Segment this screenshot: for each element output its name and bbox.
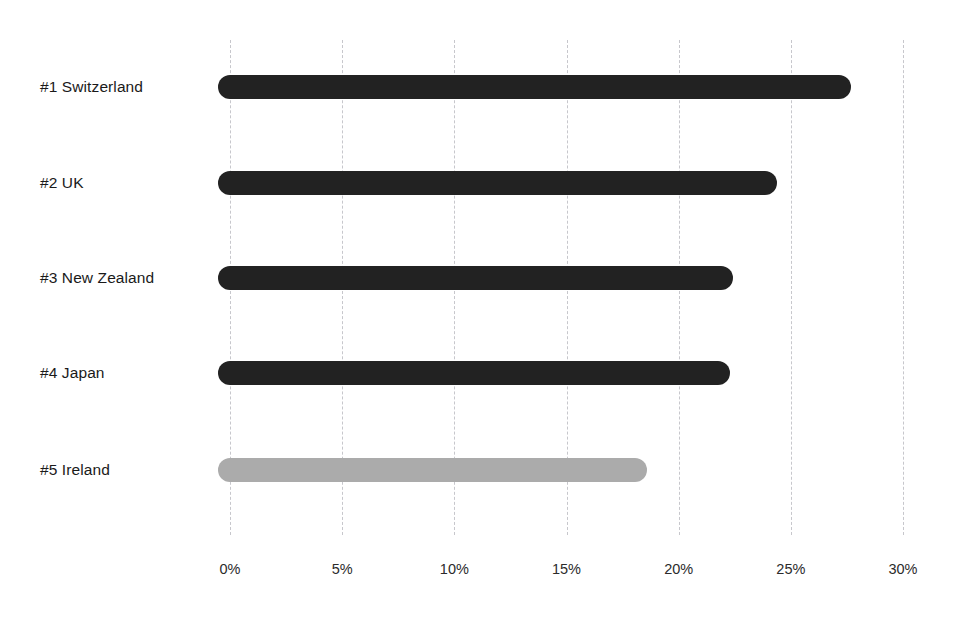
x-tick-label: 10%	[440, 561, 469, 577]
bar-row: #4 Japan	[0, 361, 980, 385]
bar-3-new-zealand	[218, 266, 733, 290]
bar-category-label: #4 Japan	[40, 364, 105, 382]
bar-row: #1 Switzerland	[0, 75, 980, 99]
bar-category-label: #2 UK	[40, 174, 84, 192]
bar-row: #2 UK	[0, 171, 980, 195]
bar-1-switzerland	[218, 75, 851, 99]
x-tick-label: 15%	[552, 561, 581, 577]
x-tick-label: 20%	[664, 561, 693, 577]
bar-track	[218, 458, 647, 482]
bar-track	[218, 266, 733, 290]
x-tick-label: 30%	[888, 561, 917, 577]
bar-category-label: #1 Switzerland	[40, 78, 143, 96]
bar-4-japan	[218, 361, 730, 385]
bar-5-ireland	[218, 458, 647, 482]
x-tick-label: 5%	[332, 561, 353, 577]
bar-chart: #1 Switzerland#2 UK#3 New Zealand#4 Japa…	[0, 0, 980, 629]
bar-track	[218, 75, 851, 99]
bar-category-label: #3 New Zealand	[40, 269, 154, 287]
bar-track	[218, 171, 777, 195]
bar-row: #5 Ireland	[0, 458, 980, 482]
bar-row: #3 New Zealand	[0, 266, 980, 290]
bar-category-label: #5 Ireland	[40, 461, 110, 479]
plot-area: #1 Switzerland#2 UK#3 New Zealand#4 Japa…	[0, 0, 980, 629]
x-tick-label: 0%	[220, 561, 241, 577]
bar-track	[218, 361, 730, 385]
bar-2-uk	[218, 171, 777, 195]
x-tick-label: 25%	[776, 561, 805, 577]
